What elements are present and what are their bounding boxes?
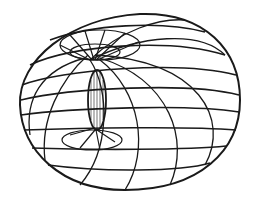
wireframe-figure <box>0 0 253 202</box>
spindle-torus-wireframe <box>0 0 253 202</box>
